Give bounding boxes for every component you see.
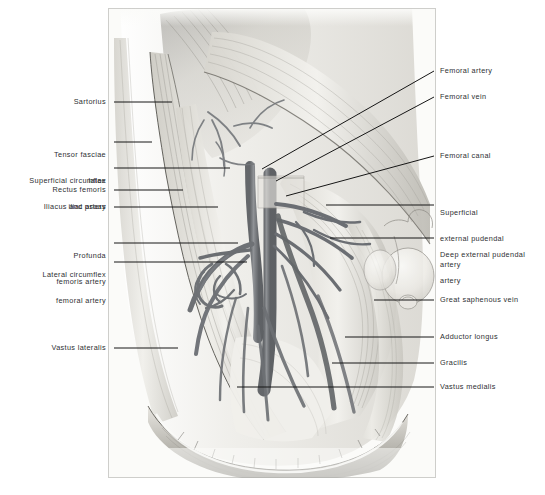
label-gracilis: Gracilis: [440, 359, 545, 368]
leader-femoral-artery: [262, 71, 434, 169]
label-femoral-canal: Femoral canal: [440, 152, 545, 161]
label-iliacus-and-psoas: Iliacus and psoas: [0, 203, 106, 212]
label-line: Tensor fasciae: [0, 151, 106, 160]
label-femoral-vein: Femoral vein: [440, 93, 545, 102]
label-vastus-medialis: Vastus medialis: [440, 383, 545, 392]
label-great-saphenous-vein: Great saphenous vein: [440, 296, 545, 305]
label-line: Deep external pudendal: [440, 251, 545, 260]
label-deep-external-pudendal-artery: Deep external pudendal artery: [440, 234, 545, 303]
label-femoral-artery: Femoral artery: [440, 67, 545, 76]
label-line: femoral artery: [0, 297, 106, 306]
leader-femoral-vein: [276, 97, 434, 181]
label-rectus-femoris: Rectus femoris: [0, 186, 106, 195]
label-line: Lateral circumflex: [0, 271, 106, 280]
figure-plate-page: Sartorius Tensor fasciae latae Superfici…: [0, 0, 545, 495]
label-lateral-circumflex-femoral-artery: Lateral circumflex femoral artery: [0, 254, 106, 323]
label-line: artery: [440, 277, 545, 286]
label-vastus-lateralis: Vastus lateralis: [0, 344, 106, 353]
label-line: Superficial: [440, 209, 545, 218]
leader-femoral-canal: [286, 156, 434, 196]
label-sartorius: Sartorius: [0, 98, 106, 107]
label-adductor-longus: Adductor longus: [440, 333, 545, 342]
